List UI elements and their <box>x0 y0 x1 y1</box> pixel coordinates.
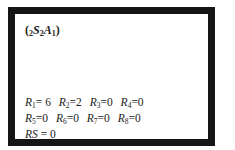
reward-value: =0 <box>36 112 48 124</box>
reward-value: =0 <box>100 96 112 108</box>
reward-letter: R <box>118 112 125 124</box>
state-box: (2S2A1) R1= 6 R2=2 R3=0 R4=0 R5=0 R6=0 R… <box>8 7 215 146</box>
reward-r1: R1= 6 <box>25 96 51 108</box>
reward-row-1: R1= 6 R2=2 R3=0 R4=0 <box>25 96 149 112</box>
reward-r4: R4=0 <box>121 96 144 108</box>
reward-r2: R2=2 <box>59 96 82 108</box>
reward-value: =0 <box>131 96 143 108</box>
reward-letter: R <box>25 112 32 124</box>
reward-value: =0 <box>129 112 141 124</box>
rs-row: RS = 0 <box>25 128 149 141</box>
reward-letter: R <box>59 96 66 108</box>
reward-r7: R7=0 <box>87 112 110 124</box>
reward-letter: R <box>90 96 97 108</box>
title-s-letter: S <box>33 23 40 37</box>
reward-r6: R6=0 <box>56 112 79 124</box>
reward-letter: R <box>121 96 128 108</box>
reward-r3: R3=0 <box>90 96 113 108</box>
reward-r8: R8=0 <box>118 112 141 124</box>
reward-row-2: R5=0 R6=0 R7=0 R8=0 <box>25 112 149 128</box>
state-title: (2S2A1) <box>25 23 60 38</box>
reward-letter: R <box>87 112 94 124</box>
title-a-subscript: 1 <box>52 29 56 38</box>
reward-r5: R5=0 <box>25 112 48 124</box>
rs-value: = 0 <box>38 128 56 140</box>
reward-value: =2 <box>70 96 82 108</box>
reward-values: R1= 6 R2=2 R3=0 R4=0 R5=0 R6=0 R7=0 R8=0… <box>25 96 149 141</box>
reward-value: =0 <box>98 112 110 124</box>
reward-value: = 6 <box>36 96 51 108</box>
reward-value: =0 <box>67 112 79 124</box>
title-a-letter: A <box>44 23 52 37</box>
reward-letter: R <box>25 96 32 108</box>
rs-label: RS <box>25 128 38 140</box>
reward-letter: R <box>56 112 63 124</box>
